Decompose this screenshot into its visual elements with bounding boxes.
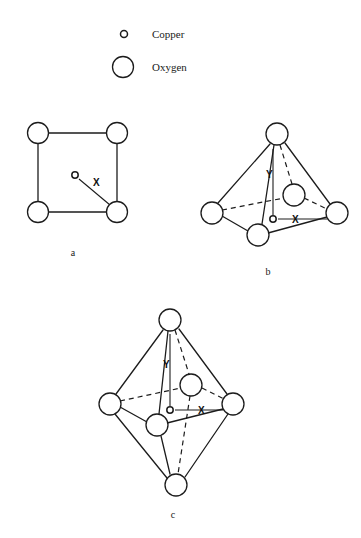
bond-dashed	[304, 198, 327, 209]
copper-legend-label: Copper	[152, 28, 185, 40]
copper-atom	[167, 407, 173, 413]
bond-dashed	[178, 396, 190, 474]
bond-solid	[167, 409, 223, 423]
axis-label-Y: Y	[163, 359, 170, 370]
bond-dashed	[120, 388, 181, 401]
oxygen-legend-icon	[113, 57, 134, 78]
oxygen-atom-top-left	[28, 123, 49, 144]
oxygen-legend-label: Oxygen	[152, 61, 187, 73]
bond-solid	[161, 436, 170, 474]
bond-solid	[116, 330, 163, 394]
oxygen-atom-top-right	[107, 123, 128, 144]
panel-b: YXb	[201, 123, 348, 277]
bond-solid	[120, 407, 147, 422]
bond-dashed	[222, 198, 284, 210]
oxygen-atom-bottom-right	[107, 202, 128, 223]
copper-atom	[72, 172, 78, 178]
oxygen-atom-right	[326, 202, 348, 224]
oxygen-atom-top-apex	[159, 309, 181, 331]
panel-c: YXc	[99, 309, 244, 520]
panel-caption-c: c	[171, 509, 176, 520]
bond-solid	[222, 216, 248, 231]
bond-solid	[262, 145, 274, 224]
oxygen-atom-back	[283, 184, 305, 206]
bond-solid	[185, 414, 228, 477]
distance-label-X: X	[93, 177, 100, 188]
oxygen-atom-right	[222, 393, 244, 415]
oxygen-atom-back	[180, 374, 202, 396]
oxygen-atom-bottom-apex	[165, 474, 187, 496]
panels-group: XaYXbYXc	[28, 123, 349, 521]
oxygen-atom-bottom-left	[28, 202, 49, 223]
panel-caption-b: b	[266, 266, 271, 277]
bond-dashed	[202, 388, 224, 399]
bond-dashed	[175, 330, 189, 374]
oxygen-atom-front-bottom	[247, 224, 269, 246]
oxygen-atom-front	[146, 414, 168, 436]
legend: Copper Oxygen	[113, 28, 188, 78]
bond-solid	[218, 144, 270, 203]
oxygen-atom-apex	[266, 123, 288, 145]
panel-caption-a: a	[71, 247, 76, 258]
bond-solid	[159, 331, 168, 414]
oxygen-atom-left	[201, 202, 223, 224]
axis-label-Y: Y	[266, 169, 273, 180]
panel-a: Xa	[28, 123, 128, 259]
axis-label-X: X	[292, 214, 299, 225]
figure-container: Copper Oxygen XaYXbYXc	[0, 0, 361, 538]
oxygen-atom-left	[99, 393, 121, 415]
copper-atom	[270, 216, 276, 222]
axis-label-X: X	[198, 405, 205, 416]
copper-legend-icon	[121, 31, 128, 38]
crystal-coordination-figure: Copper Oxygen XaYXbYXc	[0, 0, 361, 538]
